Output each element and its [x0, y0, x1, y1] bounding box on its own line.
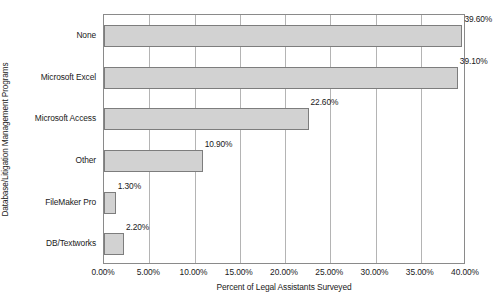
bar-value-label: 39.10%: [460, 56, 488, 66]
y-axis-tick-label: Other: [10, 155, 96, 165]
bar-row: 39.60%: [104, 25, 466, 47]
gridline-vertical: [240, 15, 241, 263]
gridline-vertical: [421, 15, 422, 263]
bar: [104, 25, 462, 47]
x-axis-tick-labels: 0.00%5.00%10.00%15.00%20.00%25.00%30.00%…: [103, 267, 465, 279]
bar: [104, 150, 203, 172]
bar-row: 22.60%: [104, 108, 466, 130]
gridline-vertical: [195, 15, 196, 263]
plot-inner: 39.60%39.10%22.60%10.90%1.30%2.20%: [104, 15, 464, 263]
bar: [104, 192, 116, 214]
gridline-vertical: [285, 15, 286, 263]
bar: [104, 233, 124, 255]
bar-row: 2.20%: [104, 233, 466, 255]
gridline-vertical: [376, 15, 377, 263]
bar-value-label: 1.30%: [118, 181, 141, 191]
y-axis-tick-label: None: [10, 30, 96, 40]
bar-row: 39.10%: [104, 67, 466, 89]
bar-value-label: 22.60%: [311, 97, 339, 107]
bar: [104, 67, 458, 89]
bar: [104, 108, 309, 130]
bar-value-label: 10.90%: [205, 139, 233, 149]
y-axis-title: Database/Litigation Management Programs: [0, 14, 12, 265]
plot-area: 39.60%39.10%22.60%10.90%1.30%2.20%: [103, 14, 465, 264]
x-axis-title: Percent of Legal Assistants Surveyed: [103, 282, 465, 293]
y-axis-tick-label: DB/Textworks: [10, 238, 96, 248]
cropped-chart-title: [150, 0, 400, 3]
bar-row: 1.30%: [104, 192, 466, 214]
bar-row: 10.90%: [104, 150, 466, 172]
bar-value-label: 39.60%: [464, 14, 492, 24]
y-axis-tick-labels: NoneMicrosoft ExcelMicrosoft AccessOther…: [14, 14, 100, 264]
gridline-vertical: [330, 15, 331, 263]
x-axis-tick-label: 40.00%: [437, 267, 493, 278]
y-axis-tick-label: Microsoft Access: [10, 113, 96, 123]
y-axis-tick-label: FileMaker Pro: [10, 197, 96, 207]
y-axis-tick-label: Microsoft Excel: [10, 72, 96, 82]
bar-value-label: 2.20%: [126, 222, 149, 232]
